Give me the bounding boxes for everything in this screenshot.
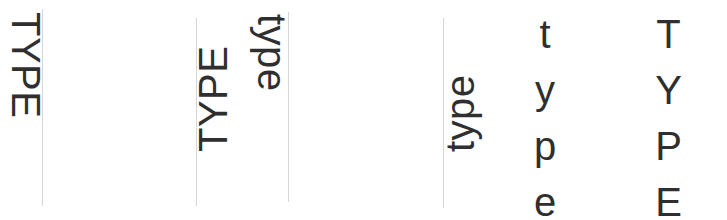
type-sample-uppercase-upright-stacked: T Y P E <box>610 0 727 220</box>
stacked-letter: t <box>539 6 550 62</box>
stacked-letter: y <box>535 62 555 118</box>
type-sample-lowercase-rotated-cw: type <box>240 0 360 220</box>
type-sample-lowercase-upright-stacked: t y p e <box>480 0 610 220</box>
type-specimen-sheet: TYPE TYPE type type t y p e T Y P E <box>0 0 727 220</box>
stacked-letter-column: T Y P E <box>610 6 727 220</box>
rotated-word-label: type <box>252 14 292 92</box>
rotated-word-label: TYPE <box>193 46 233 152</box>
stacked-letter: e <box>534 174 556 220</box>
stacked-letter: P <box>655 118 682 174</box>
stacked-letter: E <box>655 174 682 220</box>
type-sample-lowercase-rotated-ccw: type <box>360 0 480 220</box>
rotated-word-label: TYPE <box>6 12 46 118</box>
stacked-letter: p <box>534 118 556 174</box>
type-sample-uppercase-rotated-ccw: TYPE <box>120 0 240 220</box>
stacked-letter-column: t y p e <box>480 6 610 220</box>
type-sample-uppercase-rotated-cw: TYPE <box>0 0 120 220</box>
stacked-letter: T <box>656 6 680 62</box>
rotated-word-label: type <box>440 74 480 152</box>
stacked-letter: Y <box>655 62 682 118</box>
